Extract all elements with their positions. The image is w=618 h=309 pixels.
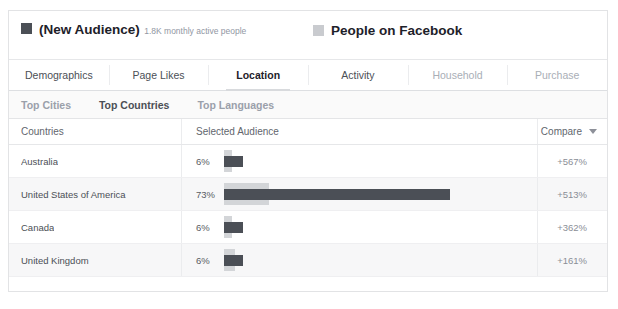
column-header-compare[interactable]: Compare [537, 119, 607, 144]
column-header-selected-audience[interactable]: Selected Audience [181, 119, 537, 144]
cell-compare: +362% [537, 211, 607, 243]
tab-activity[interactable]: Activity [308, 60, 408, 90]
table-header-row: Countries Selected Audience Compare [9, 119, 607, 145]
audience-percent-label: 6% [196, 255, 222, 266]
column-header-compare-label: Compare [541, 126, 582, 137]
legend-entry-people-on-facebook: People on Facebook [313, 23, 462, 38]
cell-selected-audience: 6% [181, 244, 537, 276]
legend-entry-new-audience: (New Audience) 1.8K monthly active peopl… [21, 20, 246, 38]
tab-purchase[interactable]: Purchase [507, 60, 607, 90]
bar-track [224, 216, 537, 238]
tab-location[interactable]: Location [208, 60, 308, 90]
legend-swatch-icon-people-on-facebook [313, 25, 324, 36]
bar-track [224, 183, 537, 205]
cell-selected-audience: 73% [181, 178, 537, 210]
cell-compare: +513% [537, 178, 607, 210]
cell-country-name: United Kingdom [9, 244, 181, 276]
cell-selected-audience: 6% [181, 145, 537, 177]
cell-country-name: Canada [9, 211, 181, 243]
legend-title-people-on-facebook: People on Facebook [331, 23, 462, 38]
compare-value-label: +567% [538, 156, 597, 167]
audience-percent-label: 6% [196, 156, 222, 167]
table-row[interactable]: Canada6%+362% [9, 211, 607, 244]
legend-header: (New Audience) 1.8K monthly active peopl… [9, 11, 607, 60]
country-name-label: United Kingdom [21, 255, 89, 266]
compare-value-label: +362% [538, 222, 597, 233]
table-row[interactable]: United States of America73%+513% [9, 178, 607, 211]
table-body: Australia6%+567%United States of America… [9, 145, 607, 277]
cell-compare: +567% [537, 145, 607, 177]
bar-track [224, 150, 537, 172]
audience-percent-label: 6% [196, 222, 222, 233]
audience-percent-label: 73% [196, 189, 222, 200]
table-row[interactable]: United Kingdom6%+161% [9, 244, 607, 277]
bar-track [224, 249, 537, 271]
compare-value-label: +513% [538, 189, 597, 200]
column-header-countries[interactable]: Countries [9, 119, 181, 144]
legend-subtitle-monthly-active-people: 1.8K monthly active people [144, 26, 246, 36]
cell-compare: +161% [537, 244, 607, 276]
bar-selected-audience [224, 222, 243, 233]
bar-selected-audience [224, 255, 243, 266]
sub-tab-top-countries[interactable]: Top Countries [99, 99, 169, 111]
legend-swatch-icon-new-audience [21, 23, 32, 34]
country-name-label: Canada [21, 222, 54, 233]
legend-text-group-new-audience: (New Audience) 1.8K monthly active peopl… [39, 20, 246, 38]
tab-household[interactable]: Household [408, 60, 508, 90]
chevron-down-icon[interactable] [589, 129, 597, 134]
bar-selected-audience [224, 189, 450, 200]
bar-selected-audience [224, 156, 243, 167]
sub-tab-top-languages[interactable]: Top Languages [197, 99, 274, 111]
tab-demographics[interactable]: Demographics [9, 60, 109, 90]
tab-page-likes[interactable]: Page Likes [109, 60, 209, 90]
country-name-label: United States of America [21, 189, 126, 200]
legend-title-new-audience: (New Audience) [39, 22, 140, 37]
sub-tab-bar: Top Cities Top Countries Top Languages [9, 91, 607, 119]
compare-value-label: +161% [538, 255, 597, 266]
top-countries-table: Countries Selected Audience Compare Aust… [9, 119, 607, 277]
sub-tab-top-cities[interactable]: Top Cities [21, 99, 71, 111]
cell-selected-audience: 6% [181, 211, 537, 243]
audience-insights-card: (New Audience) 1.8K monthly active peopl… [8, 10, 608, 292]
cell-country-name: Australia [9, 145, 181, 177]
main-tab-bar: Demographics Page Likes Location Activit… [9, 60, 607, 91]
table-row[interactable]: Australia6%+567% [9, 145, 607, 178]
country-name-label: Australia [21, 156, 58, 167]
cell-country-name: United States of America [9, 178, 181, 210]
